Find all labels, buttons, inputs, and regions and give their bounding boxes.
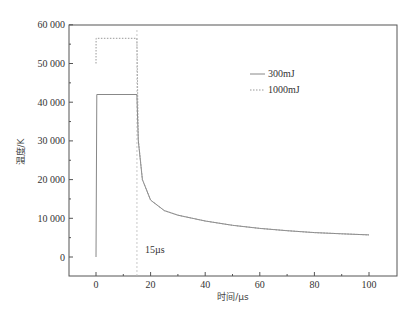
y-tick-label: 30 000 bbox=[38, 135, 66, 146]
legend-label-300mJ: 300mJ bbox=[268, 68, 295, 79]
x-axis-title: 时间/µs bbox=[217, 291, 249, 302]
y-tick-label: 0 bbox=[60, 252, 65, 263]
x-tick-label: 40 bbox=[200, 279, 210, 290]
y-axis-title: 温度/K bbox=[15, 137, 26, 165]
y-tick-label: 20 000 bbox=[38, 174, 66, 185]
y-axis-ticks: 010 00020 00030 00040 00050 00060 000 bbox=[38, 19, 74, 262]
x-axis-ticks: 020406080100 bbox=[94, 272, 377, 290]
plot-frame bbox=[69, 25, 397, 276]
x-tick-label: 80 bbox=[309, 279, 319, 290]
y-tick-label: 10 000 bbox=[38, 213, 66, 224]
y-tick-label: 60 000 bbox=[38, 19, 66, 30]
y-tick-label: 50 000 bbox=[38, 58, 66, 69]
legend: 300mJ 1000mJ bbox=[250, 68, 300, 95]
x-tick-label: 60 bbox=[255, 279, 265, 290]
temperature-time-chart: 010 00020 00030 00040 00050 00060 000 02… bbox=[0, 0, 413, 320]
x-tick-label: 0 bbox=[94, 279, 99, 290]
time-marker-annotation: 15µs bbox=[145, 244, 165, 255]
x-tick-label: 100 bbox=[362, 279, 377, 290]
x-tick-label: 20 bbox=[146, 279, 156, 290]
y-tick-label: 40 000 bbox=[38, 97, 66, 108]
legend-label-1000mJ: 1000mJ bbox=[268, 84, 300, 95]
